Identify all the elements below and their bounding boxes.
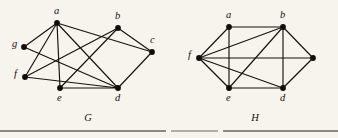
graph-G-vertex-label-e: e [57, 92, 62, 103]
graph-G-vertex-e[interactable] [57, 85, 63, 91]
graph-G-vertex-a[interactable] [54, 20, 60, 26]
graph-H-vertex-b[interactable] [280, 24, 286, 30]
graph-G-vertex-label-a: a [54, 5, 59, 16]
graph-G-group: abcgfedG [12, 5, 155, 123]
graph-H-vertex-label-d: d [280, 92, 286, 103]
graph-H-edge-f-a [199, 27, 229, 58]
graph-H-edge-f-d [199, 58, 283, 88]
graph-G-vertex-label-f: f [14, 68, 19, 79]
graph-G-vertex-c[interactable] [149, 49, 155, 55]
graph-G-edge-a-g [24, 23, 57, 47]
graph-G-vertex-b[interactable] [115, 25, 121, 31]
graph-H-edge-f-e [199, 58, 229, 88]
graph-figure-canvas: abcgfedG abfedH [0, 0, 338, 138]
graph-G-vertex-label-g: g [12, 38, 17, 49]
graph-H-vertex-label-a: a [226, 9, 231, 20]
graph-G-vertex-f[interactable] [22, 74, 28, 80]
graph-G-vertex-d[interactable] [115, 85, 121, 91]
graph-H-vertex-label-f: f [188, 49, 193, 60]
graph-G-vertex-g[interactable] [21, 44, 27, 50]
graph-G-caption: G [84, 112, 92, 123]
graph-H-edge-b-r [283, 27, 313, 58]
graph-H-group: abfedH [188, 9, 316, 123]
graph-H-vertex-a[interactable] [226, 24, 232, 30]
graph-H-caption: H [250, 112, 260, 123]
graph-H-edge-d-r [283, 58, 313, 88]
graph-G-vertex-label-b: b [115, 10, 120, 21]
graph-G-edge-c-d [118, 52, 152, 88]
graph-H-vertex-d[interactable] [280, 85, 286, 91]
graph-G-vertex-label-d: d [115, 92, 121, 103]
graph-G-edge-a-e [57, 23, 60, 88]
graph-H-vertex-r[interactable] [310, 55, 316, 61]
graph-H-vertex-label-e: e [226, 92, 231, 103]
figure-root: abcgfedG abfedH [0, 0, 338, 138]
graph-H-vertex-f[interactable] [196, 55, 202, 61]
graph-H-vertex-label-b: b [280, 9, 285, 20]
graph-G-vertex-label-c: c [150, 34, 155, 45]
graph-G-edge-b-c [118, 28, 152, 52]
graph-H-vertex-e[interactable] [226, 85, 232, 91]
graph-H-edge-f-b [199, 27, 283, 58]
